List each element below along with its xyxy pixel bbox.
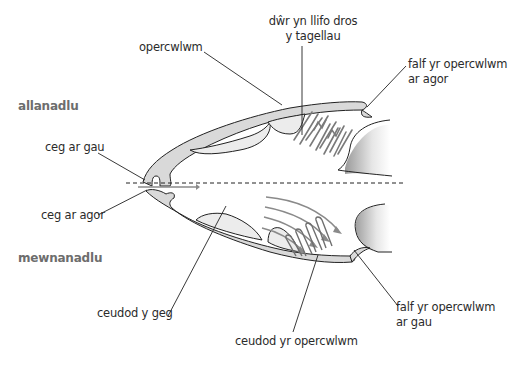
label-buccal-cavity: ceudod y geg bbox=[97, 306, 173, 321]
label-water-over-gills-line1: dŵr yn llifo dros bbox=[258, 14, 368, 29]
label-water-over-gills-line2: y tagellau bbox=[258, 29, 368, 44]
label-water-over-gills: dŵr yn llifo dros y tagellau bbox=[258, 14, 368, 44]
phase-label-exhale: allanadlu bbox=[18, 99, 79, 113]
label-valve-open: falf yr opercwlwm ar agor bbox=[408, 57, 507, 87]
label-valve-closed-line1: falf yr opercwlwm bbox=[396, 300, 495, 315]
label-mouth-open: ceg ar agor bbox=[41, 208, 105, 223]
fish-ventilation-diagram: allanadlu mewnanadlu opercwlwm dŵr yn ll… bbox=[0, 0, 517, 367]
label-valve-open-line1: falf yr opercwlwm bbox=[408, 57, 507, 72]
phase-label-inhale: mewnanadlu bbox=[18, 251, 102, 265]
label-opercular-cavity: ceudod yr opercwlwm bbox=[235, 334, 358, 349]
upper-head-exhale bbox=[143, 102, 392, 186]
upper-valve-flap bbox=[361, 110, 372, 117]
leader-lines bbox=[98, 46, 406, 332]
lower-valve-flap bbox=[350, 247, 370, 262]
label-valve-closed-line2: ar gau bbox=[396, 315, 495, 330]
label-mouth-closed: ceg ar gau bbox=[45, 140, 104, 155]
label-valve-open-line2: ar agor bbox=[408, 72, 507, 87]
label-valve-closed: falf yr opercwlwm ar gau bbox=[396, 300, 495, 330]
upper-body-tissue bbox=[345, 125, 390, 175]
label-operculum: opercwlwm bbox=[139, 40, 203, 55]
